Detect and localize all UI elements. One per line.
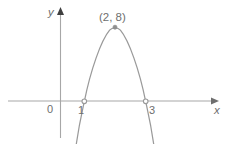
parabola-curve [76,28,153,144]
y-axis-label: y [48,6,54,18]
vertex-marker [113,25,117,29]
x-axis-label: x [214,104,220,116]
y-axis-arrow-icon [57,7,64,15]
x-tick-label-1: 1 [78,104,84,116]
parabola-figure: y x (2, 8) 0 1 3 [0,0,228,144]
root-marker-left [82,99,87,104]
origin-label: 0 [47,103,53,115]
x-tick-label-3: 3 [149,104,155,116]
root-marker-right [143,99,148,104]
vertex-label: (2, 8) [99,11,126,23]
